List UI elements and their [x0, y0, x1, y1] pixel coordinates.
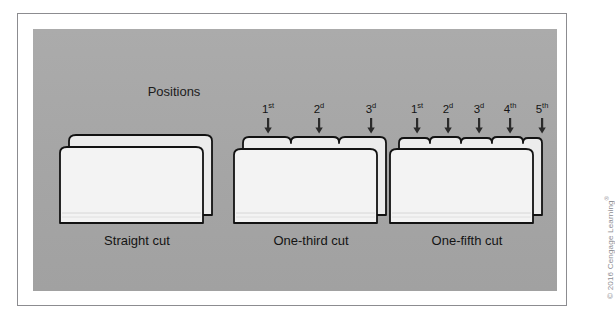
copyright-text: 2016 Cengage Learning [606, 200, 615, 290]
folder-one-fifth-cut: One-fifth cut [385, 129, 549, 229]
position-ordinal-label: 2d [435, 103, 461, 115]
folder-caption-one-fifth-cut: One-fifth cut [385, 233, 549, 248]
figure-caption: FIGURE 4-4 Folder cuts [26, 0, 155, 2]
folder-one-fifth-cut-illustration [385, 129, 549, 229]
folder-illustration-panel: Positions 1st 2d 3d 1st [33, 29, 557, 291]
position-ordinal-label: 2d [306, 103, 332, 115]
figure-frame: Positions 1st 2d 3d 1st [17, 13, 567, 306]
position-ordinal-label: 1st [255, 103, 281, 115]
folder-one-third-cut-illustration [229, 129, 393, 229]
position-ordinal-label: 1st [404, 103, 430, 115]
figure-caption-title: Folder cuts [93, 0, 156, 2]
copyright-notice: © 2016 Cengage Learning® [604, 196, 615, 299]
figure-caption-number: FIGURE 4-4 [26, 0, 90, 2]
position-ordinal-label: 3d [466, 103, 492, 115]
position-ordinal-label: 3d [358, 103, 384, 115]
folder-straight-cut: Straight cut [55, 129, 219, 229]
folder-straight-cut-illustration [55, 129, 219, 229]
position-ordinal-label: 4th [497, 103, 523, 115]
positions-label: Positions [33, 84, 315, 99]
folder-caption-one-third-cut: One-third cut [229, 233, 393, 248]
folder-caption-straight-cut: Straight cut [55, 233, 219, 248]
copyright-symbol: © [606, 293, 615, 299]
folder-one-third-cut: One-third cut [229, 129, 393, 229]
position-ordinal-label: 5th [529, 103, 555, 115]
registered-mark: ® [604, 196, 610, 200]
